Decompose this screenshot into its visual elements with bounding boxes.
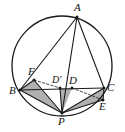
vertex-dot-a (76, 16, 79, 19)
geometry-figure: A B C D D' E F P (0, 0, 125, 132)
point-label-b: B (9, 85, 16, 96)
segment-a-p (62, 17, 77, 113)
point-label-d: D (69, 75, 77, 86)
point-label-p: P (58, 116, 65, 127)
segment-a-c (77, 17, 104, 88)
point-label-e: E (99, 101, 106, 112)
vertex-dot-d (71, 87, 74, 90)
point-label-a: A (74, 2, 81, 13)
geometry-canvas (0, 0, 125, 132)
vertex-dot-d_prime (59, 87, 62, 90)
vertex-dot-b (19, 89, 22, 92)
point-label-f: F (28, 66, 35, 77)
point-label-d-prime: D' (52, 75, 61, 85)
point-label-c: C (107, 82, 114, 93)
vertex-dot-c (103, 87, 106, 90)
vertex-dot-f (33, 79, 36, 82)
